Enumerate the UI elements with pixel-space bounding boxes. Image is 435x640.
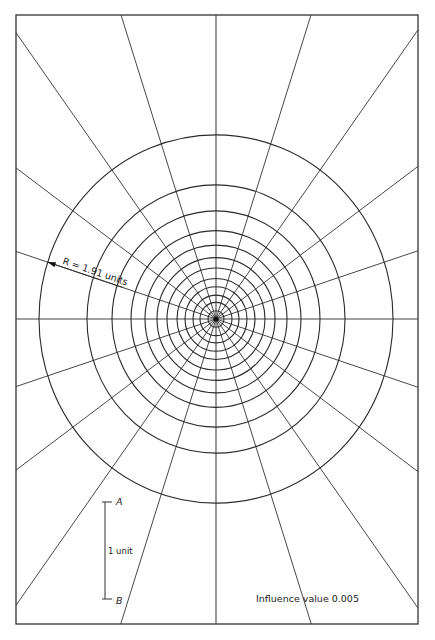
influence-value-label: Influence value 0.005: [256, 593, 359, 604]
scale-length-label: 1 unit: [108, 546, 133, 556]
radial-ray: [216, 15, 311, 319]
radial-ray: [216, 251, 418, 319]
radial-ray: [216, 319, 418, 387]
scale-point-b-label: B: [116, 595, 123, 606]
radial-ray: [16, 319, 216, 605]
radial-ray: [121, 15, 216, 319]
radial-ray: [16, 168, 216, 319]
radial-ray: [216, 319, 418, 472]
radial-ray: [16, 319, 216, 470]
radial-ray: [216, 319, 311, 624]
center-point: [213, 316, 218, 321]
influence-chart: R = 1.91 units A B 1 unit Influence valu…: [0, 0, 435, 640]
radial-ray: [216, 166, 418, 319]
arrowhead-icon: [48, 262, 56, 267]
radial-ray: [121, 319, 216, 624]
radius-annotation: R = 1.91 units: [48, 255, 130, 287]
radius-label: R = 1.91 units: [61, 255, 129, 287]
scale-point-a-label: A: [115, 496, 123, 507]
unit-scale-bar: A B 1 unit: [102, 496, 133, 606]
